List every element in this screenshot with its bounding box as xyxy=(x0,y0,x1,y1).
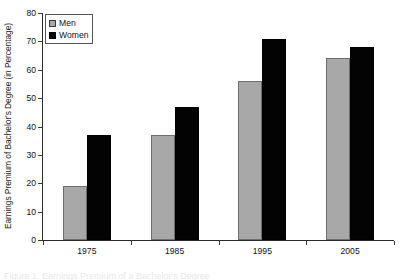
y-axis-tick-labels: 01020304050607080 xyxy=(14,0,36,280)
cropped-caption: Figure 1. Earnings Premium of a Bachelor… xyxy=(0,272,407,280)
x-tick-mark xyxy=(43,241,44,245)
x-tick-mark xyxy=(219,241,220,245)
bar-group-1975 xyxy=(43,13,131,240)
bar-men-1975 xyxy=(63,186,87,240)
x-tick-label-1975: 1975 xyxy=(57,246,117,257)
y-tick-label: 80 xyxy=(16,9,36,18)
x-tick-mark xyxy=(394,241,395,245)
x-tick-label-2005: 2005 xyxy=(320,246,380,257)
y-tick-label: 20 xyxy=(16,179,36,188)
y-tick-label: 60 xyxy=(16,65,36,74)
y-tick-label: 10 xyxy=(16,207,36,216)
y-tick-label: 50 xyxy=(16,94,36,103)
bar-group-1995 xyxy=(219,13,307,240)
legend-swatch-women-icon xyxy=(49,32,56,39)
x-tick-mark xyxy=(131,241,132,245)
legend-swatch-men-icon xyxy=(49,20,56,27)
plot-area xyxy=(43,13,394,240)
y-tick-label: 0 xyxy=(16,236,36,245)
y-axis-title: Earnings Premium of Bachelor's Degree (i… xyxy=(1,6,15,246)
bar-women-2005 xyxy=(350,47,374,240)
chart-legend: Men Women xyxy=(45,14,93,44)
x-tick-mark xyxy=(306,241,307,245)
bar-men-1995 xyxy=(238,81,262,240)
y-tick-label: 40 xyxy=(16,122,36,131)
legend-label-men: Men xyxy=(59,18,76,28)
bar-women-1995 xyxy=(262,39,286,240)
legend-item-women: Women xyxy=(49,29,88,41)
bar-group-1985 xyxy=(131,13,219,240)
bar-men-1985 xyxy=(151,135,175,240)
y-tick-label: 30 xyxy=(16,150,36,159)
legend-label-women: Women xyxy=(59,30,88,40)
x-tick-label-1985: 1985 xyxy=(145,246,205,257)
bar-women-1985 xyxy=(175,107,199,240)
y-tick-label: 70 xyxy=(16,37,36,46)
x-tick-label-1995: 1995 xyxy=(232,246,292,257)
x-axis-tick-labels: 1975198519952005 xyxy=(43,246,394,260)
legend-item-men: Men xyxy=(49,17,88,29)
bar-group-2005 xyxy=(306,13,394,240)
bar-women-1975 xyxy=(87,135,111,240)
bar-men-2005 xyxy=(326,58,350,240)
bar-chart-figure: Earnings Premium of Bachelor's Degree (i… xyxy=(0,0,407,280)
cropped-caption-text: Figure 1. Earnings Premium of a Bachelor… xyxy=(0,272,407,280)
